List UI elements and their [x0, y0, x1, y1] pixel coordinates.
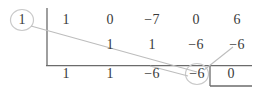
- carry-product-1: 1: [137, 37, 167, 53]
- quotient-coefficient-2: −6: [137, 66, 167, 82]
- carry-product-3: −6: [222, 37, 252, 53]
- carry-product-2: −6: [181, 37, 211, 53]
- synthetic-division-figure: 1 1 0 −7 0 6 1 1 −6 −6 1 1 −6 −6 0: [0, 0, 260, 94]
- quotient-coefficient-0: 1: [51, 66, 81, 82]
- carry-product-0: 1: [95, 37, 125, 53]
- dividend-coefficient-1: 0: [95, 12, 125, 28]
- divisor-value: 1: [7, 12, 37, 28]
- dividend-coefficient-2: −7: [137, 12, 167, 28]
- dividend-coefficient-0: 1: [51, 12, 81, 28]
- dividend-coefficient-4: 6: [222, 12, 252, 28]
- remainder-value: 0: [216, 66, 246, 82]
- dividend-coefficient-3: 0: [181, 12, 211, 28]
- quotient-coefficient-3: −6: [182, 66, 212, 82]
- quotient-coefficient-1: 1: [95, 66, 125, 82]
